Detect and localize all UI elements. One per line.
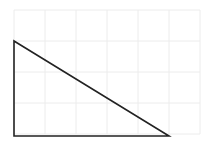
grid-lines: [14, 10, 200, 134]
triangle-diagram: [0, 0, 209, 145]
right-triangle: [14, 41, 169, 136]
